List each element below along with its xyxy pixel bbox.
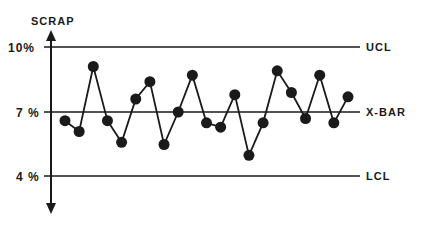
- series-line: [65, 67, 348, 156]
- data-point: [286, 87, 297, 98]
- arrow-down-icon: [46, 203, 56, 214]
- tick-label-7: 7 %: [16, 106, 40, 120]
- lcl-label: LCL: [366, 170, 390, 182]
- tick-label-4: 4 %: [16, 170, 40, 184]
- data-point: [74, 126, 85, 137]
- data-point: [187, 70, 198, 81]
- data-point: [173, 107, 184, 118]
- data-point: [159, 139, 170, 150]
- data-point: [229, 89, 240, 100]
- data-point: [258, 117, 269, 128]
- control-chart: SCRAP 10% 7 % 4 % UCL X-BAR LCL: [0, 0, 421, 226]
- y-axis-title: SCRAP: [31, 15, 75, 27]
- data-point: [60, 115, 71, 126]
- data-point: [343, 91, 354, 102]
- data-point: [215, 122, 226, 133]
- data-point: [272, 65, 283, 76]
- data-point: [144, 76, 155, 87]
- data-point: [102, 115, 113, 126]
- data-point: [314, 70, 325, 81]
- y-axis: [46, 30, 56, 214]
- data-point: [88, 61, 99, 72]
- arrow-up-icon: [46, 30, 56, 41]
- xbar-label: X-BAR: [366, 106, 406, 118]
- data-point: [243, 150, 254, 161]
- data-point: [201, 117, 212, 128]
- data-point: [116, 137, 127, 148]
- data-series: [60, 61, 354, 161]
- data-point: [328, 117, 339, 128]
- ucl-label: UCL: [366, 41, 392, 53]
- tick-label-10: 10%: [8, 41, 35, 55]
- data-point: [300, 113, 311, 124]
- data-point: [130, 94, 141, 105]
